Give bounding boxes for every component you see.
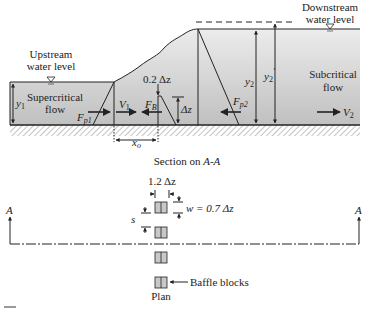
supercritical-label-1: Supercritical [27,91,83,103]
section-marker-left: A [5,204,13,216]
w-label: w = 0.7 Δz [186,202,234,214]
downstream-label-2: water level [306,13,355,25]
s-label: s [131,213,135,225]
plan-caption: Plan [151,290,171,302]
section-caption: Section on A-A [154,155,221,167]
delta-z-label: Δz [180,103,192,115]
plan-view [10,190,359,288]
baffle-block-plan-1 [155,202,167,213]
upstream-label-2: water level [27,60,76,72]
section-marker-right: A [354,204,362,216]
downstream-label-1: Downstream [302,1,359,13]
xo-label: xo [131,136,141,150]
supercritical-label-2: flow [45,103,65,115]
hydraulic-jump-diagram: Upstream water level Downstream water le… [0,0,369,309]
upstream-label-1: Upstream [30,48,73,60]
baffle-blocks-label: Baffle blocks [190,276,249,288]
baffle-block-plan-3 [155,252,167,263]
subcritical-label-2: flow [323,81,343,93]
channel-bed [10,125,360,136]
block-top-label: 0.2 Δz [143,73,171,85]
baffle-block-plan-4 [155,277,167,288]
scan-mark [4,306,16,308]
baffle-block-plan-2 [155,227,167,238]
spacing-label: 1.2 Δz [148,175,176,187]
subcritical-label-1: Subcritical [309,68,357,80]
